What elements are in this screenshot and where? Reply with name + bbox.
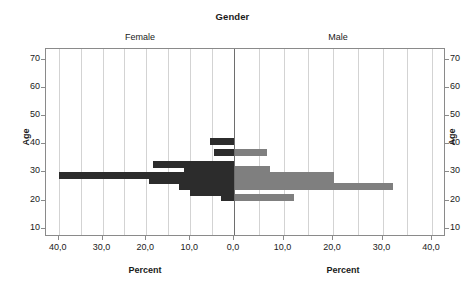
bar-male-age-21 xyxy=(235,194,294,201)
x-tick-mark xyxy=(58,236,59,240)
center-axis-line xyxy=(234,49,235,235)
y-tick-label-left: 20 xyxy=(18,194,40,204)
gridline-vertical xyxy=(190,49,191,235)
panel-label-female: Female xyxy=(100,32,180,42)
x-axis-title-left: Percent xyxy=(100,265,190,275)
gridline-vertical-minor xyxy=(308,49,309,235)
y-tick-label-left: 30 xyxy=(18,165,40,175)
y-tick-mark-right xyxy=(445,115,449,116)
x-tick-mark xyxy=(145,236,146,240)
y-tick-label-right: 40 xyxy=(450,137,465,147)
y-tick-label-left: 10 xyxy=(18,222,40,232)
gridline-vertical-minor xyxy=(168,49,169,235)
bar-female-age-41 xyxy=(210,138,234,145)
gridline-vertical xyxy=(284,49,285,235)
y-tick-mark-left xyxy=(41,87,45,88)
y-tick-mark-right xyxy=(445,59,449,60)
gridline-vertical xyxy=(432,49,433,235)
gridline-vertical xyxy=(333,49,334,235)
y-tick-mark-right xyxy=(445,228,449,229)
x-tick-label: 30,0 xyxy=(362,242,402,252)
y-tick-mark-left xyxy=(41,200,45,201)
x-tick-mark xyxy=(189,236,190,240)
y-tick-label-right: 30 xyxy=(450,165,465,175)
y-tick-label-left: 40 xyxy=(18,137,40,147)
x-tick-label: 30,0 xyxy=(82,242,122,252)
gridline-vertical-minor xyxy=(259,49,260,235)
y-tick-label-left: 50 xyxy=(18,109,40,119)
y-tick-mark-right xyxy=(445,87,449,88)
y-tick-mark-right xyxy=(445,143,449,144)
panel-label-male: Male xyxy=(298,32,378,42)
gridline-vertical-minor xyxy=(81,49,82,235)
gridline-vertical-minor xyxy=(358,49,359,235)
y-tick-mark-left xyxy=(41,228,45,229)
gridline-vertical xyxy=(146,49,147,235)
x-tick-label: 40,0 xyxy=(411,242,451,252)
bar-male-age-31 xyxy=(235,166,270,173)
gridline-vertical xyxy=(103,49,104,235)
x-tick-mark xyxy=(102,236,103,240)
x-tick-mark xyxy=(382,236,383,240)
x-tick-mark xyxy=(233,236,234,240)
y-tick-label-right: 60 xyxy=(450,81,465,91)
y-tick-label-right: 10 xyxy=(450,222,465,232)
y-tick-mark-right xyxy=(445,171,449,172)
gridline-vertical-minor xyxy=(124,49,125,235)
x-axis-title-right: Percent xyxy=(298,265,388,275)
gridline-vertical-minor xyxy=(407,49,408,235)
x-tick-label: 40,0 xyxy=(38,242,78,252)
y-tick-mark-left xyxy=(41,171,45,172)
plot-area xyxy=(45,48,445,236)
y-tick-mark-left xyxy=(41,143,45,144)
x-tick-mark xyxy=(283,236,284,240)
chart-title: Gender xyxy=(0,11,465,22)
x-tick-mark xyxy=(332,236,333,240)
y-tick-mark-left xyxy=(41,115,45,116)
bar-male-age-37 xyxy=(235,149,267,156)
y-tick-mark-right xyxy=(445,200,449,201)
x-tick-label: 0,0 xyxy=(213,242,253,252)
x-tick-label: 10,0 xyxy=(263,242,303,252)
x-tick-label: 10,0 xyxy=(169,242,209,252)
y-tick-label-right: 70 xyxy=(450,53,465,63)
bar-female-age-37 xyxy=(214,149,234,156)
x-tick-label: 20,0 xyxy=(312,242,352,252)
gridline-vertical xyxy=(383,49,384,235)
y-tick-label-left: 60 xyxy=(18,81,40,91)
y-tick-label-right: 20 xyxy=(450,194,465,204)
y-tick-label-left: 70 xyxy=(18,53,40,63)
bar-female-age-33 xyxy=(153,161,234,168)
chart-container: Gender Female Male Age Age Percent Perce… xyxy=(0,0,465,288)
y-tick-mark-left xyxy=(41,59,45,60)
x-tick-mark xyxy=(431,236,432,240)
y-tick-label-right: 50 xyxy=(450,109,465,119)
gridline-vertical xyxy=(59,49,60,235)
x-tick-label: 20,0 xyxy=(125,242,165,252)
